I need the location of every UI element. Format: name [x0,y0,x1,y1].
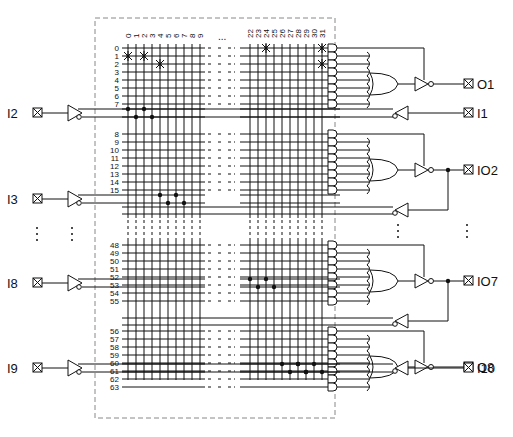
and-gate-icon [328,154,337,162]
vertical-ellipsis-icon [397,224,399,226]
and-gate-icon [328,241,337,249]
junction-dot [264,277,268,281]
input-pin-label: I9 [7,361,18,376]
vertical-ellipsis-icon [466,236,468,238]
vertical-ellipsis-icon [36,227,38,229]
and-gate-icon [328,367,337,375]
row-label: 63 [110,383,119,392]
row-label: 7 [115,100,120,109]
junction-dot [174,193,178,197]
vertical-ellipsis-icon [466,230,468,232]
vertical-ellipsis-icon [71,227,73,229]
junction-dot [320,370,324,374]
and-gate-icon [328,170,337,178]
inverter-bubble-icon [429,279,434,284]
and-gate-icon [328,92,337,100]
inverter-bubble-icon [429,82,434,87]
and-gate-icon [328,383,337,391]
inverter-bubble-icon [77,370,82,375]
and-gate-icon [328,52,337,60]
inverting-buffer-icon [415,360,428,374]
input-pin-label: I1 [477,106,488,121]
and-gate-icon [328,351,337,359]
and-gate-icon [328,186,337,194]
row-label: 15 [110,186,119,195]
input-pin-label: I2 [7,106,18,121]
input-pin-label: I3 [7,192,18,207]
and-gate-icon [328,162,337,170]
and-gate-icon [328,375,337,383]
junction-dot [182,201,186,205]
input-pin-label: I10 [477,361,495,376]
vertical-ellipsis-icon [397,230,399,232]
or-gate-icon [370,73,398,95]
or-gate-icon [370,356,398,378]
and-gate-icon [328,273,337,281]
and-gate-icon [328,281,337,289]
and-gate-icon [328,335,337,343]
junction-dot [296,362,300,366]
and-gate-icon [328,327,337,335]
and-gate-icon [328,44,337,52]
and-gate-icon [328,249,337,257]
inverter-bubble-icon [393,322,398,327]
junction-dot [312,362,316,366]
inverting-buffer-icon [415,274,428,288]
junction-dot [272,285,276,289]
vertical-ellipsis-icon [36,233,38,235]
fuse-intact-icon [142,54,145,57]
inverter-bubble-icon [77,285,82,290]
junction-dot [158,193,162,197]
row-label: 55 [110,297,119,306]
and-gate-icon [328,343,337,351]
vertical-ellipsis-icon [71,239,73,241]
and-gate-icon [328,289,337,297]
inverting-buffer-icon [415,77,428,91]
fuse-intact-icon [126,54,129,57]
column-label: 31 [318,29,327,38]
fuse-intact-icon [158,62,161,65]
output-pin-label: O1 [477,77,494,92]
and-gate-icon [328,178,337,186]
inverter-bubble-icon [429,168,434,173]
junction-dot [166,201,170,205]
or-gate-icon [370,159,398,181]
junction-dot [256,285,260,289]
junction-dot [248,277,252,281]
and-gate-icon [328,297,337,305]
fuse-intact-icon [320,46,323,49]
and-gate-icon [328,359,337,367]
fuse-intact-icon [320,62,323,65]
vertical-ellipsis-icon [466,224,468,226]
vertical-ellipsis-icon [397,236,399,238]
inverting-buffer-icon [415,163,428,177]
or-gate-icon [370,270,398,292]
inverter-bubble-icon [393,114,398,119]
vertical-ellipsis-icon [36,239,38,241]
inverter-bubble-icon [393,369,398,374]
and-gate-icon [328,68,337,76]
and-gate-icon [328,130,337,138]
and-gate-icon [328,257,337,265]
inverter-bubble-icon [77,201,82,206]
inverter-bubble-icon [429,365,434,370]
vertical-ellipsis-icon [71,233,73,235]
output-pin-label: IO2 [477,163,498,178]
inverter-bubble-icon [77,115,82,120]
and-gate-icon [328,138,337,146]
and-gate-icon [328,265,337,273]
junction-dot [304,370,308,374]
and-gate-icon [328,60,337,68]
and-gate-icon [328,76,337,84]
column-ellipsis: ... [218,31,226,42]
inverter-bubble-icon [393,211,398,216]
array-boundary-box [95,18,335,418]
fuse-intact-icon [264,46,267,49]
output-pin-label: IO7 [477,274,498,289]
and-gate-icon [328,84,337,92]
column-label: 9 [196,33,205,38]
and-gate-icon [328,146,337,154]
input-pin-label: I8 [7,276,18,291]
pal-logic-diagram: 012345678922232425262728293031...0123456… [0,0,513,437]
and-gate-icon [328,100,337,108]
